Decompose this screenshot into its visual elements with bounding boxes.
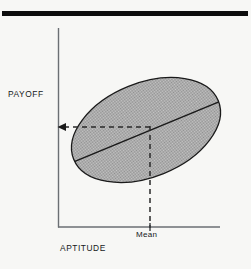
figure-container: PAYOFF APTITUDE Mean — [0, 0, 251, 269]
x-axis-label: APTITUDE — [60, 243, 106, 253]
data-ellipse — [56, 57, 236, 203]
x-axis-tick-label-mean: Mean — [136, 230, 157, 239]
y-axis-label: PAYOFF — [8, 89, 44, 99]
plot-canvas — [0, 0, 251, 269]
